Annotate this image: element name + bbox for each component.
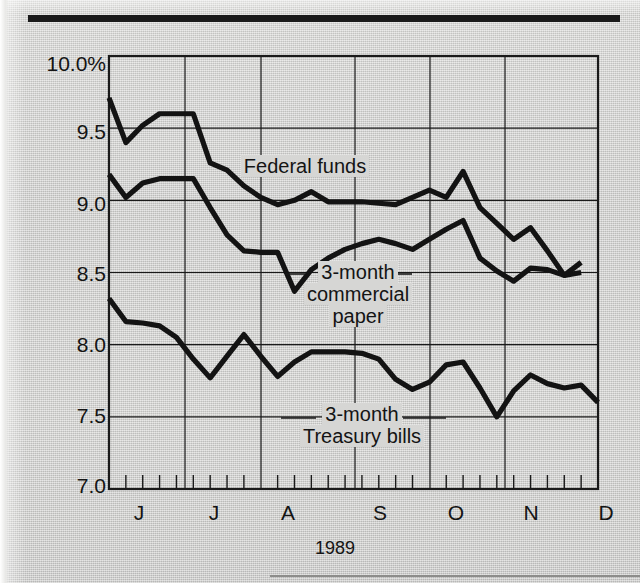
treasury-bills-label: 3-month Treasury bills	[288, 403, 436, 447]
xtick-label-jul: J	[199, 501, 229, 525]
commercial-paper-line-1: 3-month	[318, 261, 397, 283]
xtick-label-jun: J	[124, 501, 154, 525]
ytick-label-1: 9.5	[14, 120, 106, 144]
commercial-paper-label: 3-month commercial paper	[293, 261, 423, 327]
ytick-label-0: 10.0%	[14, 52, 106, 76]
chart-figure: 10.0% 9.5 9.0 8.5 8.0 7.5 7.0 J J A S O …	[0, 0, 640, 583]
treasury-bills-line-1: 3-month	[322, 403, 401, 425]
x-axis-title: 1989	[300, 538, 370, 559]
ytick-label-4: 8.0	[14, 333, 106, 357]
xtick-label-oct: O	[441, 501, 471, 525]
treasury-bills-line-2: Treasury bills	[300, 425, 424, 447]
axis-ticks	[126, 475, 581, 489]
xtick-label-sep: S	[365, 501, 395, 525]
federal-funds-label: Federal funds	[225, 155, 385, 177]
ytick-label-5: 7.5	[14, 404, 106, 428]
xtick-label-aug: A	[273, 501, 303, 525]
series-lines	[109, 98, 598, 418]
xtick-label-nov: N	[516, 501, 546, 525]
ytick-label-2: 9.0	[14, 192, 106, 216]
ytick-label-6: 7.0	[14, 474, 106, 498]
xtick-label-dec: D	[591, 501, 621, 525]
commercial-paper-line-3: paper	[329, 305, 386, 327]
commercial-paper-line-2: commercial	[304, 283, 412, 305]
federal-funds-label-text: Federal funds	[241, 155, 369, 177]
ytick-label-3: 8.5	[14, 262, 106, 286]
